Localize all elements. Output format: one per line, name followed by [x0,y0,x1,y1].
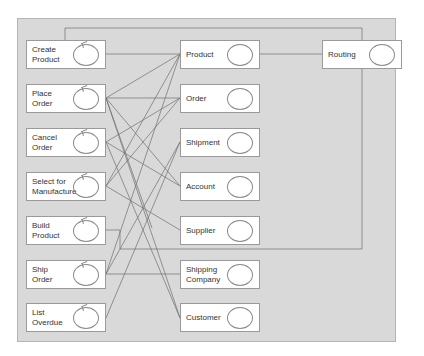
entity-label: Routing [328,50,356,60]
entity-object-icon [369,44,395,66]
entity-supplier[interactable]: Supplier [180,216,260,245]
entity-object-icon [227,307,253,329]
control-ship-order[interactable]: Ship Order [26,260,106,289]
entity-label: Account [186,182,215,192]
entity-label: Customer [186,313,221,323]
entity-shipping-company[interactable]: Shipping Company [180,260,260,289]
control-list-overdue[interactable]: List Overdue [26,303,106,332]
control-object-icon [73,264,99,286]
entity-object-icon [227,88,253,110]
entity-label: Shipping Company [186,265,220,285]
control-build-product[interactable]: Build Product [26,216,106,245]
entity-object-icon [227,132,253,154]
entity-account[interactable]: Account [180,172,260,201]
control-label: Ship Order [32,265,52,285]
entity-label: Shipment [186,138,220,148]
entity-label: Order [186,94,206,104]
control-label: Cancel Order [32,133,57,153]
control-object-icon [73,176,99,198]
control-place-order[interactable]: Place Order [26,84,106,113]
entity-object-icon [227,44,253,66]
entity-order[interactable]: Order [180,84,260,113]
control-object-icon [73,307,99,329]
entity-label: Supplier [186,226,215,236]
entity-customer[interactable]: Customer [180,303,260,332]
entity-shipment[interactable]: Shipment [180,128,260,157]
entity-object-icon [227,264,253,286]
control-object-icon [73,88,99,110]
control-label: Build Product [32,221,60,241]
control-label: Select for Manufacture [32,177,76,197]
entity-object-icon [227,220,253,242]
control-object-icon [73,44,99,66]
control-label: Create Product [32,45,60,65]
control-cancel-order[interactable]: Cancel Order [26,128,106,157]
control-object-icon [73,220,99,242]
control-label: List Overdue [32,308,63,328]
control-label: Place Order [32,89,52,109]
control-object-icon [73,132,99,154]
entity-product[interactable]: Product [180,40,260,69]
entity-label: Product [186,50,214,60]
entity-object-icon [227,176,253,198]
control-create-product[interactable]: Create Product [26,40,106,69]
control-select-for-manufacture[interactable]: Select for Manufacture [26,172,106,201]
entity-routing[interactable]: Routing [322,40,402,69]
